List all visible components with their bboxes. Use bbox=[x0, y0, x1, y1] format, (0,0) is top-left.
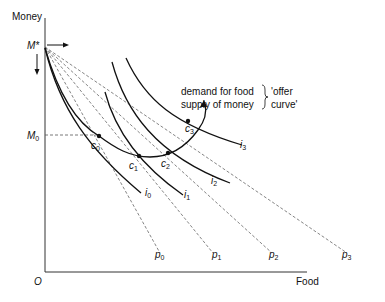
c1-sub: 1 bbox=[134, 165, 138, 172]
i1-sub: 1 bbox=[186, 194, 190, 201]
label-c3: c3 bbox=[185, 124, 194, 135]
label-i2: i2 bbox=[211, 176, 217, 187]
label-i0: i0 bbox=[145, 188, 151, 199]
annotation-demand-for-food: demand for food bbox=[181, 87, 254, 97]
indifference-curve-i0 bbox=[45, 48, 141, 193]
label-c1: c1 bbox=[129, 161, 138, 172]
label-i3: i3 bbox=[240, 140, 246, 151]
offer-curve-diagram bbox=[0, 0, 385, 302]
label-c0: c0 bbox=[91, 141, 100, 152]
label-p0: p0 bbox=[155, 250, 164, 261]
p3-sub: 3 bbox=[348, 254, 352, 261]
p0-sub: 0 bbox=[161, 254, 165, 261]
label-p1: p1 bbox=[212, 250, 221, 261]
price-line-p2 bbox=[45, 47, 272, 253]
point-c0 bbox=[97, 134, 101, 138]
annotation-offer: 'offer bbox=[271, 87, 293, 97]
price-line-p1 bbox=[45, 47, 213, 253]
brace bbox=[262, 85, 268, 109]
price-line-p0 bbox=[45, 47, 160, 253]
point-c1 bbox=[137, 154, 141, 158]
point-c2 bbox=[166, 151, 170, 155]
label-i1: i1 bbox=[184, 190, 190, 201]
indifference-curves bbox=[45, 48, 242, 195]
annotation-supply-of-money: supply of money bbox=[181, 100, 254, 110]
origin-label: O bbox=[34, 277, 42, 287]
annotation-curve: curve' bbox=[271, 100, 297, 110]
label-p3: p3 bbox=[342, 250, 351, 261]
indifference-curve-i1 bbox=[105, 92, 183, 195]
m-star-label: M* bbox=[27, 41, 39, 51]
x-axis-label: Food bbox=[296, 277, 319, 287]
c2-sub: 2 bbox=[166, 163, 170, 170]
i3-sub: 3 bbox=[242, 144, 246, 151]
label-c2: c2 bbox=[161, 159, 170, 170]
c3-sub: 3 bbox=[190, 128, 194, 135]
i0-sub: 0 bbox=[147, 192, 151, 199]
i2-sub: 2 bbox=[213, 180, 217, 187]
y-axis-label: Money bbox=[12, 12, 42, 22]
m-zero-sub: 0 bbox=[35, 135, 39, 142]
p1-sub: 1 bbox=[218, 254, 222, 261]
c0-sub: 0 bbox=[96, 145, 100, 152]
label-p2: p2 bbox=[269, 250, 278, 261]
m-zero-label: M0 bbox=[27, 131, 39, 142]
p2-sub: 2 bbox=[275, 254, 279, 261]
